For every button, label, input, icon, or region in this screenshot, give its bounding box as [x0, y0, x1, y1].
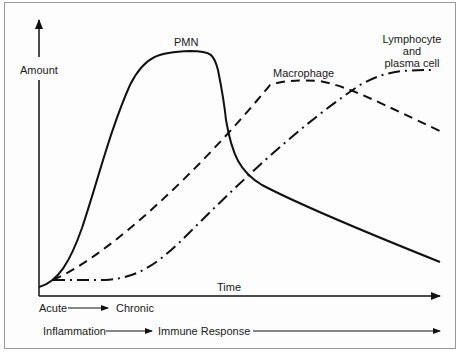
- inflammation-label: Inflammation: [43, 325, 106, 338]
- pmn-curve: [39, 51, 440, 287]
- pmn-label: PMN: [174, 36, 198, 49]
- chronic-label: Chronic: [116, 302, 154, 315]
- x-axis-label: Time: [217, 281, 241, 294]
- lymphocyte-label-line3: plasma cell: [372, 57, 452, 70]
- immune-response-label: Immune Response: [158, 325, 250, 338]
- y-axis-label: Amount: [20, 64, 58, 77]
- acute-label: Acute: [39, 302, 67, 315]
- macrophage-label: Macrophage: [273, 67, 334, 80]
- macrophage-curve: [53, 80, 442, 280]
